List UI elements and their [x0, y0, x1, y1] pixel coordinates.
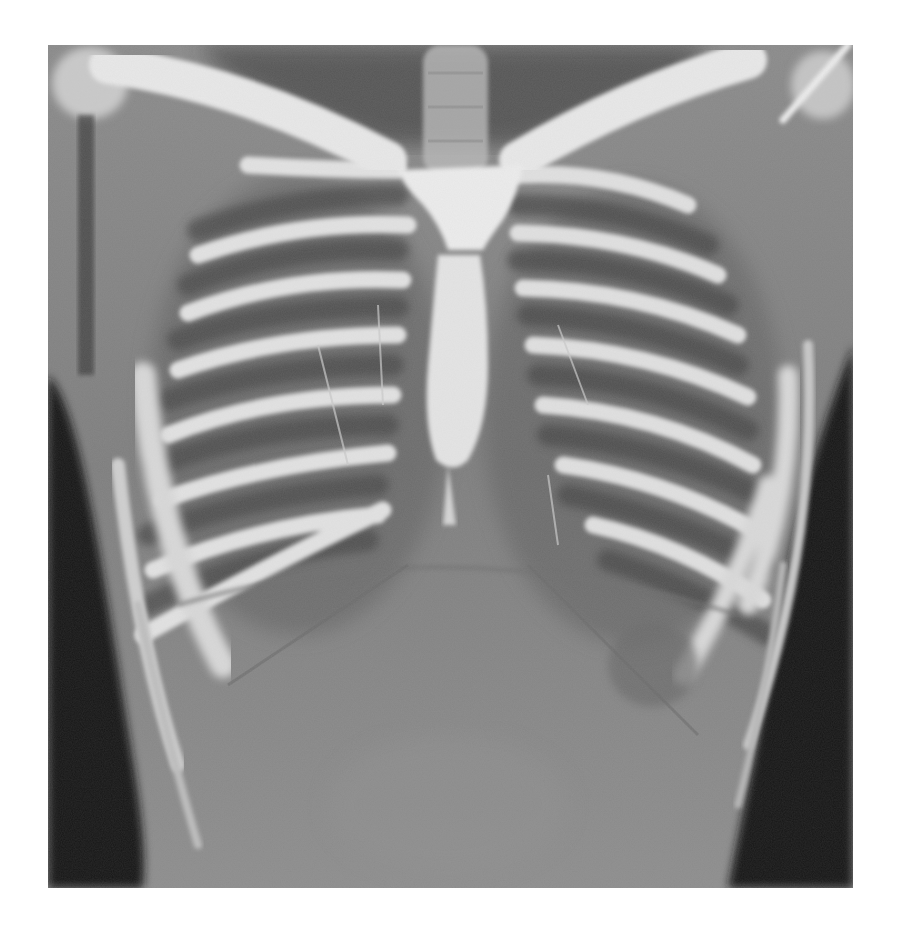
chest-ct-image — [48, 45, 853, 888]
image-noise — [48, 45, 853, 888]
cropped-caption — [0, 0, 897, 5]
chest-ct-svg — [48, 45, 853, 888]
